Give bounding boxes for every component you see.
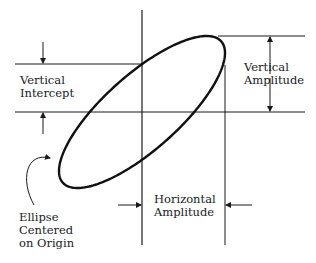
vertical-amplitude-label: Vertical Amplitude bbox=[244, 61, 304, 87]
horizontal-amplitude-label: Horizontal Amplitude bbox=[154, 193, 216, 219]
label-line: Amplitude bbox=[244, 74, 304, 87]
vertical-intercept-label: Vertical Intercept bbox=[20, 74, 74, 100]
label-line: Amplitude bbox=[154, 206, 216, 219]
label-line: on Origin bbox=[19, 237, 74, 250]
ellipse-diagram: Vertical Intercept Vertical Amplitude Ho… bbox=[0, 0, 316, 263]
label-line: Intercept bbox=[20, 87, 74, 100]
ellipse-note-label: Ellipse Centered on Origin bbox=[19, 211, 74, 250]
ellipse-note-leader-icon bbox=[27, 157, 50, 205]
